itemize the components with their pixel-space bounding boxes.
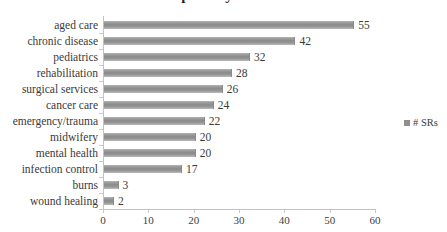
bar-value-label: 32 — [254, 49, 266, 65]
category-label: burns — [0, 177, 98, 193]
bar-fill — [104, 117, 205, 125]
x-axis-tick-label: 20 — [188, 214, 199, 226]
bar-row: aged care55 — [0, 17, 447, 33]
category-label: wound healing — [0, 193, 98, 209]
category-label: mental health — [0, 145, 98, 161]
bar-value-label: 24 — [218, 97, 230, 113]
bar-row: burns3 — [0, 177, 447, 193]
x-axis-tick-label: 60 — [370, 214, 381, 226]
bar-value-label: 2 — [118, 193, 124, 209]
y-axis-tick — [99, 49, 103, 50]
x-axis-tick — [148, 209, 149, 213]
category-label: aged care — [0, 17, 98, 33]
bar-value-label: 42 — [299, 33, 311, 49]
bar[interactable] — [104, 69, 231, 77]
category-label: rehabilitation — [0, 65, 98, 81]
bar-value-label: 28 — [236, 65, 248, 81]
bar-fill — [104, 85, 223, 93]
bar-value-label: 26 — [227, 81, 239, 97]
chart-legend: # SRs — [404, 117, 438, 128]
x-axis-tick — [239, 209, 240, 213]
bar[interactable] — [104, 133, 195, 141]
x-axis-tick-label: 30 — [234, 214, 245, 226]
bar-row: chronic disease42 — [0, 33, 447, 49]
bar-fill — [104, 37, 295, 45]
bar-row: emergency/trauma22 — [0, 113, 447, 129]
y-axis-tick — [99, 145, 103, 146]
x-axis-tick-label: 0 — [100, 214, 106, 226]
x-axis-tick — [330, 209, 331, 213]
x-axis-tick-label: 40 — [279, 214, 290, 226]
category-label: surgical services — [0, 81, 98, 97]
bar-value-label: 22 — [209, 113, 221, 129]
y-axis-tick — [99, 193, 103, 194]
bar-row: midwifery20 — [0, 129, 447, 145]
chart-title: Specialty Areas — [0, 0, 447, 4]
y-axis-tick — [99, 97, 103, 98]
bar-fill — [104, 197, 114, 205]
bar-fill — [104, 101, 214, 109]
bar-row: rehabilitation28 — [0, 65, 447, 81]
category-label: emergency/trauma — [0, 113, 98, 129]
bar[interactable] — [104, 181, 118, 189]
bar-fill — [104, 165, 182, 173]
bar[interactable] — [104, 85, 222, 93]
bar-value-label: 17 — [186, 161, 198, 177]
bar-value-label: 20 — [200, 145, 212, 161]
category-label: midwifery — [0, 129, 98, 145]
bar[interactable] — [104, 21, 353, 29]
bar[interactable] — [104, 101, 213, 109]
bar-row: cancer care24 — [0, 97, 447, 113]
x-axis-tick-label: 50 — [324, 214, 335, 226]
bar-row: surgical services26 — [0, 81, 447, 97]
x-axis-tick-label: 10 — [143, 214, 154, 226]
y-axis-tick — [99, 113, 103, 114]
legend-swatch-srs — [404, 120, 410, 126]
bar-fill — [104, 69, 232, 77]
bar-fill — [104, 133, 196, 141]
bar[interactable] — [104, 53, 249, 61]
bar[interactable] — [104, 197, 113, 205]
bar-row: wound healing2 — [0, 193, 447, 209]
legend-label-srs: # SRs — [413, 117, 438, 128]
category-label: infection control — [0, 161, 98, 177]
y-axis-tick — [99, 65, 103, 66]
bar-fill — [104, 149, 196, 157]
bar-value-label: 20 — [200, 129, 212, 145]
x-axis-tick — [103, 209, 104, 213]
x-axis-tick — [284, 209, 285, 213]
bar-row: mental health20 — [0, 145, 447, 161]
bar[interactable] — [104, 165, 181, 173]
category-label: cancer care — [0, 97, 98, 113]
bar-value-label: 3 — [123, 177, 129, 193]
bar-fill — [104, 53, 250, 61]
x-axis-tick — [375, 209, 376, 213]
y-axis-tick — [99, 177, 103, 178]
x-axis-tick — [194, 209, 195, 213]
y-axis-tick — [99, 129, 103, 130]
bar[interactable] — [104, 149, 195, 157]
bar[interactable] — [104, 117, 204, 125]
y-axis-tick — [99, 161, 103, 162]
y-axis-tick — [99, 209, 103, 210]
bar-row: infection control17 — [0, 161, 447, 177]
bar-fill — [104, 21, 354, 29]
bar-fill — [104, 181, 119, 189]
category-label: chronic disease — [0, 33, 98, 49]
bar-value-label: 55 — [358, 17, 370, 33]
y-axis-tick — [99, 33, 103, 34]
y-axis-tick — [99, 81, 103, 82]
bar-row: pediatrics32 — [0, 49, 447, 65]
category-label: pediatrics — [0, 49, 98, 65]
bar[interactable] — [104, 37, 294, 45]
